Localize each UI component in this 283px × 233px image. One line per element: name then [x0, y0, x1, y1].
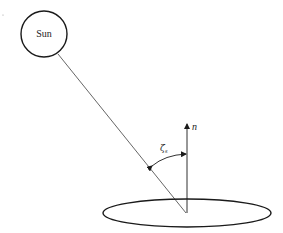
corner-mark — [2, 14, 3, 15]
zenith-angle-subscript: s — [165, 148, 168, 154]
normal-label: n — [192, 121, 197, 132]
sun-label: Sun — [36, 28, 52, 39]
zenith-angle-label: ζs — [160, 143, 168, 154]
sun-ray-line — [58, 54, 186, 213]
solar-zenith-diagram: Sun n ζs — [0, 0, 283, 233]
zenith-angle-arc — [152, 154, 186, 166]
